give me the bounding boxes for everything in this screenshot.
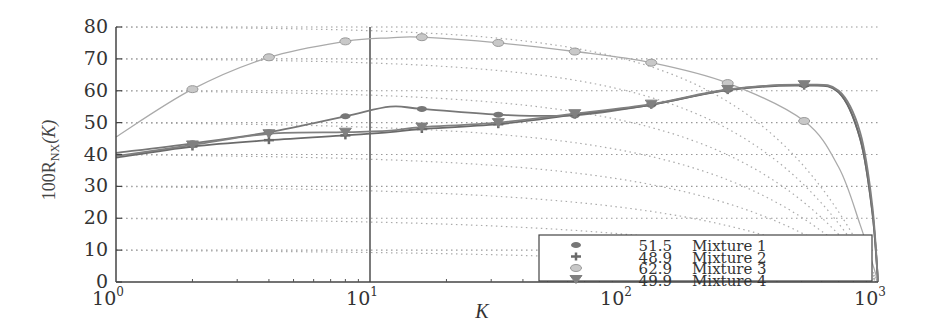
y-tick-label: 30 (84, 174, 108, 196)
x-tick-label: 101 (346, 285, 378, 309)
circle-marker-icon (571, 265, 582, 272)
circle-marker-icon (416, 34, 427, 41)
x-tick-label: 103 (854, 285, 886, 309)
circle-marker-icon (340, 38, 351, 45)
x-tick-labels: 100101102103 (92, 279, 886, 309)
asterisk-marker-icon (571, 242, 581, 248)
y-tick-label: 50 (84, 111, 108, 133)
legend: 51.5Mixture 148.9Mixture 262.9Mixture 34… (539, 235, 872, 290)
chart: 01020304050607080 100101102103 K 100RNX(… (0, 0, 931, 333)
x-tick-label: 100 (92, 285, 124, 309)
y-tick-label: 80 (84, 15, 108, 37)
asterisk-marker-icon (493, 112, 503, 118)
x-axis-label: K (474, 300, 490, 322)
y-tick-label: 40 (84, 143, 108, 165)
circle-marker-icon (646, 59, 657, 66)
asterisk-marker-icon (340, 113, 350, 119)
x-tick-label: 102 (600, 285, 632, 309)
y-tick-label: 60 (84, 79, 108, 101)
circle-marker-icon (187, 86, 198, 93)
asterisk-marker-icon (417, 106, 427, 112)
y-tick-label: 70 (84, 47, 108, 69)
circle-marker-icon (493, 39, 504, 46)
y-tick-label: 20 (84, 206, 108, 228)
circle-marker-icon (263, 54, 274, 61)
circle-marker-icon (569, 48, 580, 55)
legend-label: Mixture 4 (692, 272, 767, 290)
circle-marker-icon (799, 118, 810, 125)
y-tick-label: 10 (84, 238, 108, 260)
legend-score: 49.9 (639, 272, 672, 290)
y-axis-label: 100RNX(K) (39, 120, 62, 200)
